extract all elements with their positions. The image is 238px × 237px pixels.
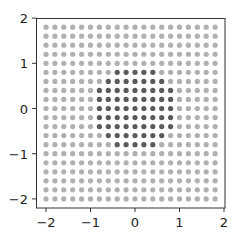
data-point-outside: [115, 178, 120, 183]
data-point-outside: [79, 52, 84, 57]
data-point-inside: [159, 97, 164, 102]
data-point-outside: [213, 133, 218, 138]
data-point-inside: [97, 124, 102, 129]
data-point-inside: [141, 124, 146, 129]
data-point-outside: [52, 160, 57, 165]
data-point-inside: [159, 79, 164, 84]
data-point-outside: [79, 79, 84, 84]
data-point-inside: [141, 142, 146, 147]
data-point-outside: [88, 196, 93, 201]
data-point-outside: [132, 151, 137, 156]
data-point-inside: [159, 124, 164, 129]
data-point-outside: [177, 25, 182, 30]
data-point-outside: [43, 124, 48, 129]
data-point-outside: [79, 178, 84, 183]
data-point-outside: [115, 52, 120, 57]
data-point-outside: [204, 106, 209, 111]
data-point-outside: [168, 70, 173, 75]
data-point-inside: [132, 115, 137, 120]
data-point-outside: [159, 25, 164, 30]
data-point-outside: [141, 187, 146, 192]
data-point-outside: [141, 169, 146, 174]
data-point-outside: [213, 106, 218, 111]
data-point-outside: [177, 178, 182, 183]
data-point-outside: [168, 79, 173, 84]
data-point-outside: [88, 169, 93, 174]
data-point-outside: [61, 43, 66, 48]
data-point-outside: [204, 178, 209, 183]
data-point-outside: [195, 52, 200, 57]
data-point-outside: [177, 142, 182, 147]
data-point-outside: [204, 52, 209, 57]
data-point-outside: [52, 106, 57, 111]
data-point-inside: [150, 142, 155, 147]
data-point-inside: [141, 115, 146, 120]
data-point-outside: [52, 34, 57, 39]
data-point-inside: [141, 70, 146, 75]
data-point-outside: [124, 196, 129, 201]
data-point-outside: [150, 169, 155, 174]
data-point-outside: [204, 97, 209, 102]
data-point-outside: [168, 160, 173, 165]
data-point-outside: [52, 79, 57, 84]
data-point-outside: [177, 106, 182, 111]
data-point-outside: [177, 169, 182, 174]
data-point-outside: [88, 133, 93, 138]
data-point-outside: [52, 70, 57, 75]
data-point-inside: [106, 97, 111, 102]
data-point-outside: [97, 133, 102, 138]
data-point-outside: [186, 25, 191, 30]
x-tick-label: 2: [220, 215, 228, 230]
data-point-outside: [97, 160, 102, 165]
data-point-outside: [141, 160, 146, 165]
data-point-outside: [150, 34, 155, 39]
data-point-outside: [88, 88, 93, 93]
data-point-outside: [177, 34, 182, 39]
data-point-inside: [124, 115, 129, 120]
data-point-outside: [150, 43, 155, 48]
data-point-inside: [115, 142, 120, 147]
data-point-outside: [168, 169, 173, 174]
data-point-outside: [70, 88, 75, 93]
data-point-outside: [43, 70, 48, 75]
data-point-outside: [43, 160, 48, 165]
data-point-outside: [106, 43, 111, 48]
data-point-inside: [132, 106, 137, 111]
data-point-outside: [97, 187, 102, 192]
data-point-outside: [159, 34, 164, 39]
data-point-outside: [141, 52, 146, 57]
data-point-outside: [79, 106, 84, 111]
data-point-outside: [52, 133, 57, 138]
data-point-inside: [132, 88, 137, 93]
data-point-outside: [204, 169, 209, 174]
data-point-outside: [124, 43, 129, 48]
data-point-outside: [150, 151, 155, 156]
data-point-outside: [106, 187, 111, 192]
data-point-outside: [61, 52, 66, 57]
data-point-outside: [97, 178, 102, 183]
data-point-inside: [159, 133, 164, 138]
data-point-outside: [132, 25, 137, 30]
data-point-inside: [124, 124, 129, 129]
data-point-inside: [115, 124, 120, 129]
data-point-inside: [115, 70, 120, 75]
data-point-outside: [195, 151, 200, 156]
data-point-outside: [195, 106, 200, 111]
data-point-outside: [186, 88, 191, 93]
data-point-inside: [106, 124, 111, 129]
data-point-outside: [168, 61, 173, 66]
data-point-outside: [88, 61, 93, 66]
data-point-outside: [132, 187, 137, 192]
data-point-outside: [186, 196, 191, 201]
data-point-inside: [150, 79, 155, 84]
data-point-outside: [43, 106, 48, 111]
data-point-outside: [204, 124, 209, 129]
data-point-outside: [177, 61, 182, 66]
data-point-outside: [61, 115, 66, 120]
x-tick-label: −1: [81, 215, 100, 230]
data-point-outside: [204, 79, 209, 84]
data-point-outside: [132, 196, 137, 201]
data-point-outside: [79, 88, 84, 93]
data-point-inside: [132, 142, 137, 147]
data-point-outside: [159, 187, 164, 192]
